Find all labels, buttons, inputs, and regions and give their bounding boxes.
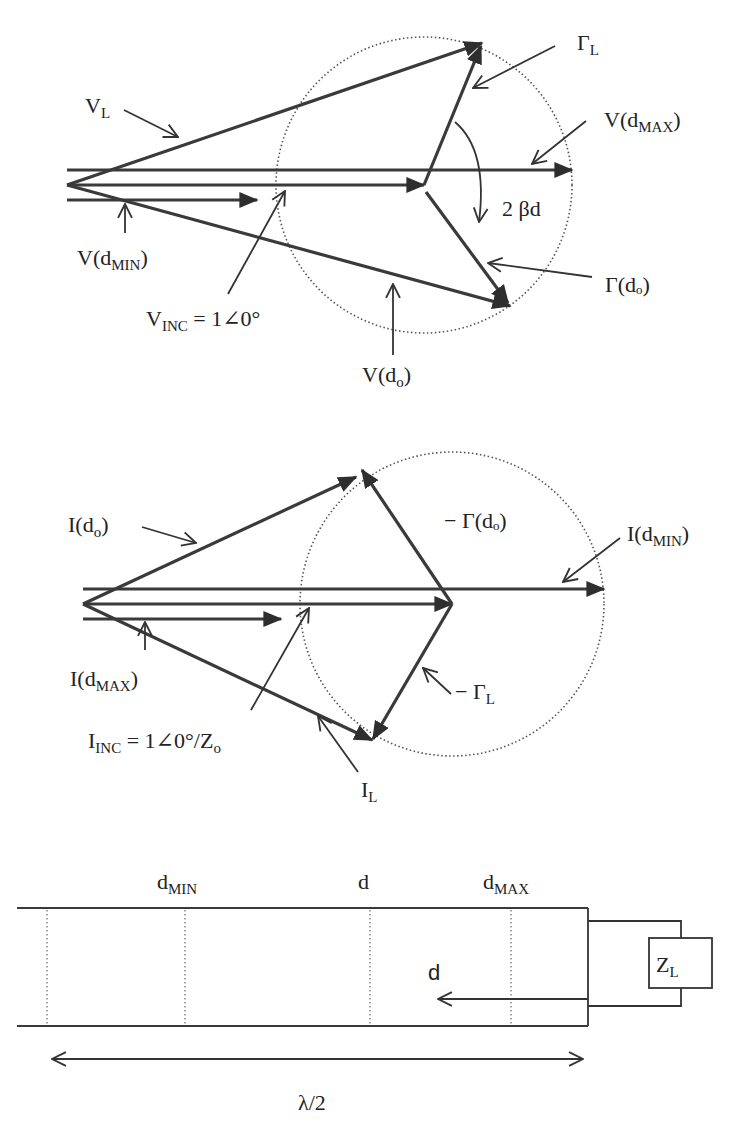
i-do-pointer-arrow <box>142 527 196 543</box>
neg-gamma-load-label: − ΓL <box>455 679 495 707</box>
load-wire-bottom <box>588 988 681 1006</box>
i-inc-label: IINC = 1∠0°/Zo <box>88 728 221 756</box>
gamma-load-pointer-arrow <box>473 46 555 88</box>
i-dmin-label: I(dMIN) <box>627 521 689 549</box>
gamma-load-label: ΓL <box>577 30 599 58</box>
v-load-label: VL <box>85 93 110 121</box>
neg-gamma-do-vector <box>362 470 452 604</box>
gamma-do-pointer-arrow <box>488 263 592 277</box>
i-inc-pointer-arrow <box>251 608 309 710</box>
v-dmin-label: V(dMIN) <box>77 245 148 273</box>
i-load-vector <box>83 604 372 740</box>
current-phasor-diagram: I(do) − Γ(dₒ) I(dMIN) I(dMAX) − ΓL IINC … <box>68 452 689 805</box>
distance-d-label: d <box>428 960 440 985</box>
neg-gamma-load-vector <box>373 604 452 739</box>
d-min-label: dMIN <box>157 869 197 897</box>
half-wavelength-label: λ/2 <box>298 1090 326 1115</box>
angle-arc-icon <box>455 122 481 222</box>
angle-2-beta-d-label: 2 βd <box>502 196 541 221</box>
neg-gamma-do-label: − Γ(dₒ) <box>444 508 507 533</box>
d-position-label: d <box>358 869 369 894</box>
gamma-do-label: Γ(dₒ) <box>605 272 650 297</box>
i-do-label: I(do) <box>68 512 108 540</box>
v-load-vector <box>67 43 482 185</box>
v-dmax-label: V(dMAX) <box>604 107 681 135</box>
load-impedance-label: ZL <box>656 952 679 980</box>
gamma-load-vector <box>424 46 481 185</box>
neg-gamma-load-pointer-arrow <box>423 668 451 694</box>
v-dmax-pointer-arrow <box>532 121 586 164</box>
v-load-pointer-arrow <box>124 110 178 137</box>
voltage-phasor-diagram: VL ΓL V(dMAX) 2 βd Γ(dₒ) V(dMIN) VINC = … <box>67 30 681 390</box>
i-load-label: IL <box>361 777 378 805</box>
load-wire-top <box>588 921 681 938</box>
i-do-vector <box>83 477 356 604</box>
v-do-vector <box>67 185 510 306</box>
i-dmax-label: I(dMAX) <box>70 666 138 694</box>
v-inc-label: VINC = 1∠0° <box>146 306 260 334</box>
phasor-diagram-figure: VL ΓL V(dMAX) 2 βd Γ(dₒ) V(dMIN) VINC = … <box>0 0 745 1125</box>
i-origin-apex <box>83 477 604 740</box>
v-do-label: V(do) <box>362 362 411 390</box>
transmission-line-diagram: dMIN d dMAX d ZL λ/2 <box>17 869 712 1115</box>
d-max-label: dMAX <box>483 869 529 897</box>
